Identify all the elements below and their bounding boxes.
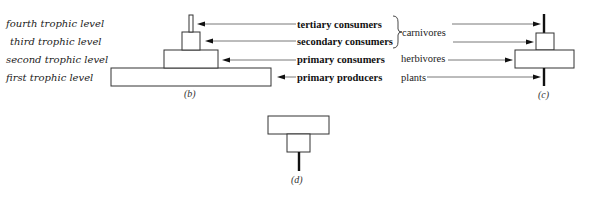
- label-primary-consumers: primary consumers: [297, 54, 385, 65]
- brace-icon: [393, 16, 402, 48]
- arrowhead-icon: [197, 22, 205, 27]
- label-tertiary-consumers: tertiary consumers: [297, 19, 382, 30]
- caption-d: (d): [291, 174, 303, 186]
- pyramid-c: [515, 14, 574, 86]
- label-secondary-consumers: secondary consumers: [297, 36, 393, 47]
- pyramid-b-level-4: [189, 15, 193, 32]
- label-second-trophic-level: second trophic level: [6, 54, 108, 65]
- arrowhead-icon: [533, 22, 541, 27]
- pyramid-c-level-3: [536, 33, 554, 50]
- label-plants: plants: [401, 72, 426, 83]
- label-first-trophic-level: first trophic level: [5, 72, 93, 83]
- ecological-pyramids-diagram: fourth trophic level third trophic level…: [0, 0, 600, 198]
- caption-c: (c): [538, 89, 550, 101]
- label-third-trophic-level: third trophic level: [10, 36, 102, 47]
- pyramid-d-level-3: [268, 116, 329, 134]
- pyramid-d: [268, 116, 329, 171]
- arrowhead-icon: [505, 58, 513, 63]
- pyramid-c-level-2: [515, 50, 574, 68]
- label-fourth-trophic-level: fourth trophic level: [5, 18, 104, 29]
- arrowhead-icon: [526, 40, 534, 45]
- pyramid-b-level-2: [164, 50, 218, 68]
- arrowhead-icon: [205, 39, 213, 44]
- arrowhead-icon: [222, 58, 230, 63]
- pyramid-b-level-1: [111, 68, 271, 86]
- caption-b: (b): [184, 88, 196, 100]
- pyramid-b: [111, 15, 271, 86]
- label-primary-producers: primary producers: [297, 72, 382, 83]
- label-carnivores: carnivores: [402, 27, 446, 38]
- arrowhead-icon: [533, 75, 541, 80]
- pyramid-b-level-3: [182, 32, 200, 50]
- pyramid-d-level-2: [287, 134, 310, 152]
- arrowhead-icon: [277, 75, 285, 80]
- label-herbivores: herbivores: [401, 53, 445, 64]
